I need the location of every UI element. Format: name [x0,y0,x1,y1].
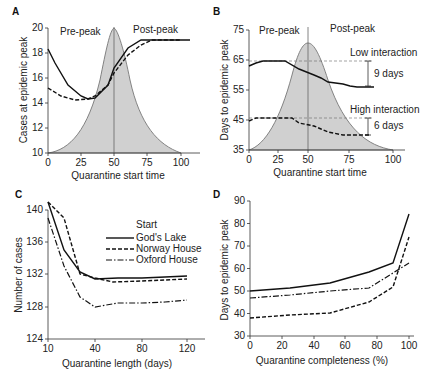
svg-text:128: 128 [26,301,43,312]
svg-text:70: 70 [234,240,246,251]
panel-label-c: C [15,189,22,200]
svg-text:65: 65 [233,54,245,65]
svg-text:20: 20 [276,340,288,351]
high-gap-label: 6 days [374,120,403,131]
svg-text:25: 25 [75,157,87,168]
svg-text:35: 35 [233,144,245,155]
y-ticks-a: 10 12 14 16 18 20 [32,22,48,158]
high-interaction-label: High interaction [350,104,419,115]
panel-label-b: B [213,6,220,17]
svg-text:16: 16 [32,72,44,83]
y-axis-label-a: Cases at epidemic peak [18,36,29,144]
x-axis-label-b: Quarantine start time [273,167,367,178]
svg-text:50: 50 [108,157,120,168]
x-ticks-a: 0 25 50 75 100 [45,153,190,168]
axes-c [48,210,205,339]
svg-text:80: 80 [136,343,148,354]
svg-text:0: 0 [45,157,51,168]
legend-oxford-house: Oxford House [136,254,198,265]
svg-text:120: 120 [179,343,196,354]
panel-d: D 30 40 50 60 70 80 90 0 20 40 60 80 100… [213,189,418,366]
svg-text:20: 20 [32,22,44,33]
svg-text:40: 40 [308,340,320,351]
series-oxford-house-d [250,263,409,298]
svg-text:90: 90 [234,195,246,206]
svg-text:25: 25 [272,154,284,165]
svg-text:45: 45 [233,114,245,125]
x-axis-label-a: Quarantine start time [71,170,165,181]
high-bracket [365,118,371,135]
figure: A 10 12 14 16 18 20 0 25 50 75 100 Quara… [0,0,427,372]
epidemic-curve-a [48,28,181,153]
legend-c: Start God's Lake Norway House Oxford Hou… [106,219,202,265]
svg-text:132: 132 [26,268,43,279]
epidemic-curve-b [249,43,393,150]
low-bracket [365,61,371,86]
legend-title: Start [136,219,157,230]
y-axis-label-c: Number of cases [13,237,24,313]
pre-peak-label-a: Pre-peak [60,26,102,37]
x-ticks-d: 0 20 40 60 80 100 [247,336,418,351]
x-ticks-b: 0 25 50 75 100 [246,150,402,165]
low-gap-label: 9 days [374,68,403,79]
series-gods-lake-d [250,214,409,291]
svg-text:75: 75 [141,157,153,168]
y-axis-label-b: Days to epidemic peak [219,38,230,140]
svg-text:40: 40 [234,308,246,319]
svg-text:140: 140 [26,204,43,215]
svg-text:75: 75 [343,154,355,165]
svg-text:55: 55 [233,84,245,95]
svg-text:100: 100 [173,157,190,168]
panel-label-d: D [213,189,220,200]
svg-text:12: 12 [32,122,44,133]
low-interaction-label: Low interaction [350,47,417,58]
x-axis-label-d: Quarantine completeness (%) [256,355,388,366]
svg-text:18: 18 [32,47,44,58]
svg-text:100: 100 [401,340,418,351]
svg-text:50: 50 [302,154,314,165]
panel-b: B 35 45 55 65 75 0 25 50 75 100 Quaranti… [213,6,419,178]
svg-text:0: 0 [246,154,252,165]
post-peak-label-a: Post-peak [133,24,179,35]
y-axis-label-d: Days to epidemic peak [219,218,230,320]
panel-c: C 124 128 132 136 140 10 40 80 120 Quara… [13,189,205,369]
panel-label-a: A [12,6,19,17]
pre-peak-label-b: Pre-peak [259,25,301,36]
svg-text:80: 80 [234,218,246,229]
x-axis-label-c: Quarantine length (days) [62,358,172,369]
svg-text:10: 10 [32,147,44,158]
panel-a: A 10 12 14 16 18 20 0 25 50 75 100 Quara… [12,6,200,181]
svg-text:60: 60 [339,340,351,351]
svg-text:60: 60 [234,263,246,274]
svg-text:136: 136 [26,236,43,247]
legend-gods-lake: God's Lake [136,232,187,243]
svg-text:10: 10 [42,343,54,354]
svg-text:0: 0 [247,340,253,351]
svg-text:30: 30 [234,330,246,341]
svg-text:100: 100 [385,154,402,165]
y-ticks-c: 124 128 132 136 140 [26,204,48,344]
svg-text:80: 80 [371,340,383,351]
svg-text:14: 14 [32,97,44,108]
y-ticks-d: 30 40 50 60 70 80 90 [234,195,250,341]
y-ticks-b: 35 45 55 65 75 [233,24,249,155]
svg-text:75: 75 [233,24,245,35]
post-peak-label-b: Post-peak [330,23,376,34]
legend-norway-house: Norway House [136,243,202,254]
x-ticks-c: 10 40 80 120 [42,339,195,354]
svg-text:50: 50 [234,285,246,296]
svg-text:124: 124 [26,333,43,344]
svg-text:40: 40 [89,343,101,354]
